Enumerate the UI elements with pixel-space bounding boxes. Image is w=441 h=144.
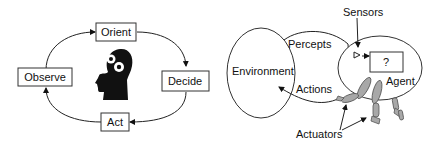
orient-label: Orient	[101, 26, 131, 38]
actions-label: Actions	[296, 83, 333, 95]
arrow-observe-orient	[46, 32, 95, 70]
act-label: Act	[107, 116, 123, 128]
agent-program-label: ?	[383, 56, 389, 68]
percepts-label: Percepts	[288, 38, 332, 50]
decide-label: Decide	[168, 75, 202, 87]
agent-environment-diagram: Environment Percepts Actions ? Agent Sen…	[227, 6, 422, 140]
arrow-act-observe	[46, 88, 101, 122]
actuator-pointer-leg	[342, 118, 366, 130]
environment-label: Environment	[232, 65, 294, 77]
diagram-canvas: Orient Decide Act Observe Environment Pe…	[0, 0, 441, 144]
ooda-loop: Orient Decide Act Observe	[18, 23, 209, 131]
actuators-label: Actuators	[296, 128, 343, 140]
actuator-pointer-arm	[340, 105, 346, 130]
observe-label: Observe	[24, 71, 66, 83]
arrow-decide-act	[130, 92, 186, 122]
agent-label: Agent	[386, 75, 415, 87]
head-with-gears-icon	[95, 49, 132, 100]
arrow-orient-decide	[137, 32, 186, 66]
sensors-label: Sensors	[343, 6, 384, 18]
